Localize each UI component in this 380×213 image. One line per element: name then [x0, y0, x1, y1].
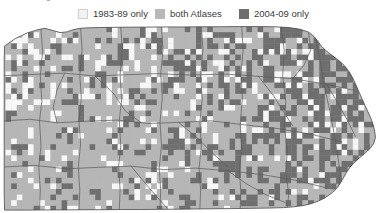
atlas-block [274, 49, 280, 55]
legend-item-both-atlases[interactable]: both Atlases [155, 6, 222, 21]
atlas-block [330, 60, 336, 66]
atlas-block [28, 77, 34, 83]
atlas-block [213, 83, 219, 89]
atlas-block [146, 71, 152, 77]
atlas-block [90, 206, 96, 212]
atlas-block [84, 32, 90, 38]
atlas-block [297, 88, 303, 94]
atlas-block [39, 99, 45, 105]
atlas-block [84, 38, 90, 44]
atlas-block [241, 155, 247, 161]
atlas-block [162, 183, 168, 189]
atlas-block [308, 167, 314, 173]
atlas-block [314, 183, 320, 189]
atlas-block [330, 66, 336, 72]
atlas-block [151, 71, 157, 77]
atlas-block [174, 88, 180, 94]
atlas-block [207, 49, 213, 55]
atlas-block [134, 55, 140, 61]
atlas-block [118, 127, 124, 133]
atlas-block [11, 49, 17, 55]
pennsylvania-atlas-map[interactable] [0, 21, 380, 213]
atlas-block [269, 111, 275, 117]
atlas-block [146, 206, 152, 212]
atlas-block [353, 144, 359, 150]
atlas-block [90, 66, 96, 72]
atlas-block [146, 55, 152, 61]
atlas-block [162, 150, 168, 156]
atlas-block [151, 178, 157, 184]
atlas-block [252, 66, 258, 72]
atlas-block [56, 155, 62, 161]
atlas-block [274, 183, 280, 189]
atlas-block [179, 43, 185, 49]
atlas-block [274, 155, 280, 161]
atlas-block [101, 172, 107, 178]
atlas-block [39, 167, 45, 173]
atlas-block [11, 189, 17, 195]
atlas-block [151, 32, 157, 38]
atlas-block [302, 167, 308, 173]
atlas-block [22, 88, 28, 94]
atlas-block [28, 183, 34, 189]
map-canvas[interactable] [0, 21, 380, 213]
atlas-block [297, 55, 303, 61]
atlas-block [78, 27, 84, 33]
atlas-block [274, 66, 280, 72]
atlas-block [67, 83, 73, 89]
atlas-block [95, 43, 101, 49]
atlas-block [73, 116, 79, 122]
atlas-block [162, 77, 168, 83]
atlas-block [213, 49, 219, 55]
atlas-block [134, 133, 140, 139]
atlas-block [342, 161, 348, 167]
atlas-block [185, 150, 191, 156]
atlas-block [174, 195, 180, 201]
atlas-block [185, 195, 191, 201]
atlas-block [101, 189, 107, 195]
atlas-block [185, 55, 191, 61]
atlas-block [22, 144, 28, 150]
atlas-block [330, 133, 336, 139]
atlas-block [213, 195, 219, 201]
atlas-block [218, 43, 224, 49]
atlas-block [202, 178, 208, 184]
atlas-block [95, 55, 101, 61]
atlas-block [22, 111, 28, 117]
atlas-block [22, 83, 28, 89]
atlas-block [162, 43, 168, 49]
atlas-block [246, 32, 252, 38]
atlas-block [22, 66, 28, 72]
legend-item-1983-89-only[interactable]: 1983-89 only [78, 6, 148, 21]
atlas-block [185, 105, 191, 111]
atlas-block [314, 172, 320, 178]
atlas-block [73, 178, 79, 184]
atlas-block [190, 167, 196, 173]
atlas-block [314, 99, 320, 105]
atlas-block [56, 77, 62, 83]
atlas-block [258, 178, 264, 184]
atlas-block [50, 189, 56, 195]
atlas-block [302, 32, 308, 38]
atlas-block [22, 55, 28, 61]
atlas-block [358, 105, 364, 111]
atlas-block [302, 88, 308, 94]
atlas-block [280, 83, 286, 89]
atlas-block [45, 195, 51, 201]
atlas-block [134, 60, 140, 66]
atlas-block [185, 139, 191, 145]
atlas-block [17, 99, 23, 105]
atlas-block [213, 99, 219, 105]
atlas-block [11, 139, 17, 145]
atlas-block [95, 60, 101, 66]
atlas-block [84, 172, 90, 178]
atlas-block [342, 71, 348, 77]
atlas-block [45, 32, 51, 38]
atlas-block [39, 88, 45, 94]
atlas-block [314, 127, 320, 133]
atlas-block [151, 77, 157, 83]
atlas-block [106, 200, 112, 206]
atlas-block [246, 116, 252, 122]
legend-item-2004-09-only[interactable]: 2004-09 only [239, 6, 309, 21]
atlas-block [364, 139, 370, 145]
